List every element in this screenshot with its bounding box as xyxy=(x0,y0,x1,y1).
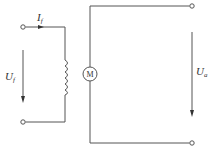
armature-bottom-wire xyxy=(90,81,190,143)
armature-terminal-bottom xyxy=(190,141,194,145)
armature-voltage-label: Ua xyxy=(196,65,208,79)
motor-icon: M xyxy=(83,67,97,81)
dc-motor-circuit-diagram: If Uf M Ua xyxy=(0,0,214,152)
field-current-arrow-icon xyxy=(38,25,44,29)
field-circuit: If Uf xyxy=(5,11,68,124)
field-voltage-label: Uf xyxy=(5,70,16,84)
armature-terminal-top xyxy=(190,4,194,8)
armature-top-wire xyxy=(90,6,190,67)
field-bottom-wire xyxy=(26,95,66,122)
field-top-wire xyxy=(26,27,66,60)
field-coil-icon xyxy=(65,60,68,95)
field-voltage-arrow-icon xyxy=(21,96,25,103)
field-terminal-top xyxy=(21,25,25,29)
field-terminal-bottom xyxy=(21,120,25,124)
motor-label: M xyxy=(86,70,93,79)
field-current-label: If xyxy=(36,11,44,25)
armature-voltage-arrow-icon xyxy=(190,110,194,117)
armature-circuit: M Ua xyxy=(83,4,208,145)
